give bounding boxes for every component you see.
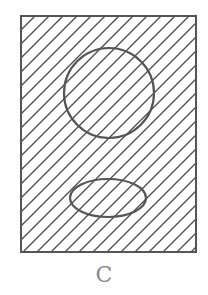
- set-diagram: [0, 0, 208, 260]
- diagram-caption: C: [0, 262, 208, 288]
